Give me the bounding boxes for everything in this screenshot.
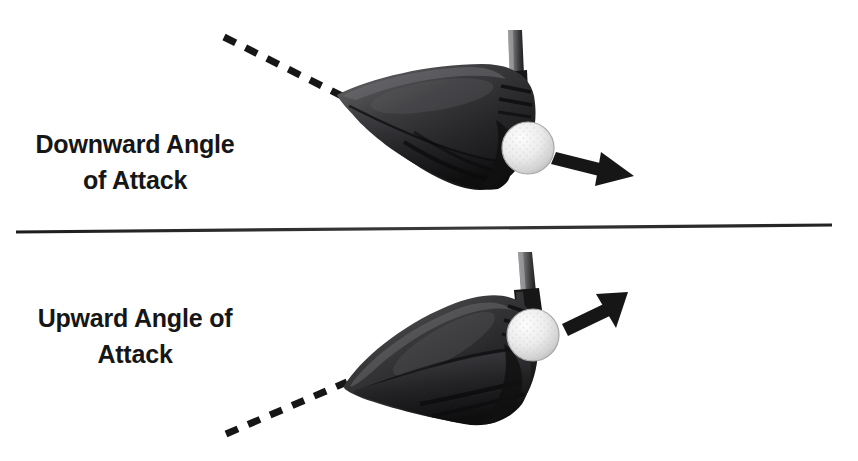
launch-arrow-upward xyxy=(562,292,628,336)
club-head-downward xyxy=(337,30,536,190)
launch-arrow-downward xyxy=(551,152,634,186)
panel-downward-graphics xyxy=(224,30,634,190)
golf-ball-upward xyxy=(507,309,559,361)
golf-ball-downward xyxy=(502,122,554,174)
horizontal-rule xyxy=(16,225,832,232)
panel-upward-graphics xyxy=(226,252,628,434)
angle-of-attack-figure: Downward Angle of Attack Upward Angle of… xyxy=(0,0,858,461)
swing-path-dashed-downward xyxy=(224,37,342,96)
swing-path-dashed-upward xyxy=(226,382,347,434)
diagram-artwork xyxy=(0,0,858,461)
